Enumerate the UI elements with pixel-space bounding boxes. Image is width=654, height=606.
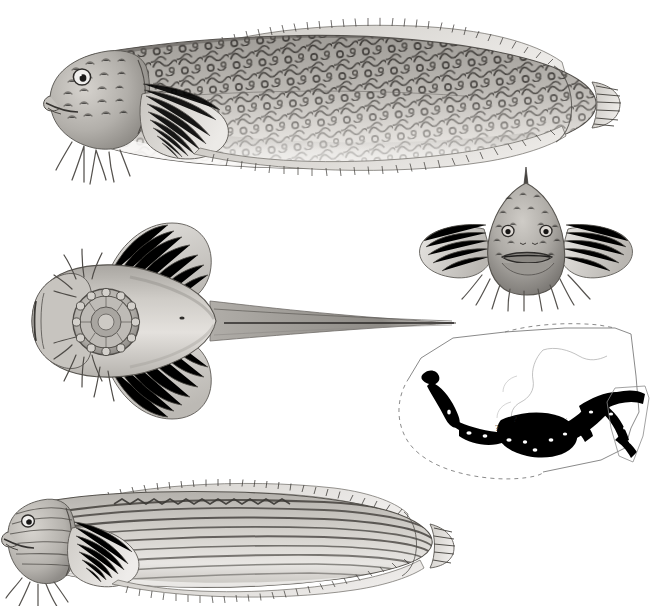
eye-right [540, 225, 552, 236]
map-uncertainty-marker-1: ? [495, 423, 499, 433]
vent-pore [179, 316, 184, 319]
eye [73, 69, 90, 85]
panel-lateral-view-striped [0, 466, 456, 606]
eye-left [502, 225, 514, 236]
pelvic-sucking-disc [72, 288, 139, 355]
head-front [488, 183, 565, 295]
eye-striped [22, 515, 35, 527]
head [50, 51, 149, 150]
map-boundary-solid-2 [409, 332, 505, 378]
map-uncertainty-marker-2: ? [513, 414, 517, 424]
